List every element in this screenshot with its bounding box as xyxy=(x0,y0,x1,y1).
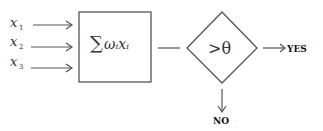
svg-text:x: x xyxy=(10,15,18,30)
svg-text:NO: NO xyxy=(213,116,229,126)
svg-text:∑: ∑ xyxy=(90,32,103,53)
svg-text:2: 2 xyxy=(19,43,23,51)
threshold-node: >θ xyxy=(187,12,257,83)
yes-output: YES xyxy=(263,44,307,54)
svg-text:3: 3 xyxy=(19,63,23,71)
svg-text:ωᵢxᵢ: ωᵢxᵢ xyxy=(104,36,129,52)
svg-text:>θ: >θ xyxy=(208,39,231,58)
svg-text:YES: YES xyxy=(286,44,307,54)
no-output: NO xyxy=(213,89,229,126)
svg-text:x: x xyxy=(10,54,18,69)
svg-text:1: 1 xyxy=(19,24,23,32)
input-x2: x 2 xyxy=(10,34,72,51)
input-x1: x 1 xyxy=(10,15,72,32)
input-x3: x 3 xyxy=(10,54,72,72)
svg-text:x: x xyxy=(10,34,18,49)
perceptron-diagram: x 1 x 2 x 3 ∑ ωᵢxᵢ >θ YES NO xyxy=(0,0,323,131)
summation-node: ∑ ωᵢxᵢ xyxy=(79,12,151,82)
